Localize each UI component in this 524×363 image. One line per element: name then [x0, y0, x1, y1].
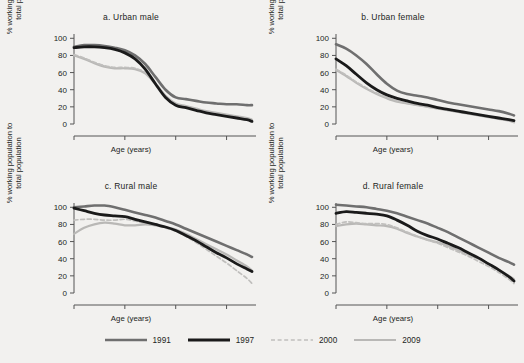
y-tick-label: 0: [63, 289, 68, 298]
y-tick-label: 40: [320, 86, 329, 95]
panel-c-xlabel: Age (years): [0, 314, 262, 323]
series-line-1997: [74, 47, 252, 122]
figure-container: a. Urban male % working population to to…: [0, 0, 524, 363]
y-tick-label: 100: [316, 34, 330, 43]
y-tick-label: 80: [320, 51, 329, 60]
legend-swatch-1991: [104, 336, 148, 344]
legend-swatch-1997: [187, 336, 231, 344]
legend-swatch-2009: [353, 336, 397, 344]
y-tick-label: 0: [63, 120, 68, 129]
chart-legend: 1991199720002009: [0, 330, 524, 350]
y-tick-label: 0: [325, 120, 330, 129]
legend-item-1991[interactable]: 1991: [104, 336, 171, 345]
y-tick-label: 20: [320, 103, 329, 112]
legend-label-2009: 2009: [402, 336, 420, 345]
y-tick-label: 40: [320, 255, 329, 264]
panel-a-plot: 02040608010045556575: [0, 6, 262, 146]
panel-d-xlabel: Age (years): [262, 314, 524, 323]
y-tick-label: 100: [54, 34, 68, 43]
legend-label-1991: 1991: [153, 336, 171, 345]
y-tick-label: 40: [58, 255, 67, 264]
y-tick-label: 80: [58, 220, 67, 229]
series-line-2000: [74, 219, 252, 283]
y-tick-label: 100: [316, 203, 330, 212]
panel-d: d. Rural female % working population to …: [262, 175, 524, 338]
panel-c: c. Rural male % working population to to…: [0, 175, 262, 338]
panel-a-xlabel: Age (years): [0, 145, 262, 154]
panel-d-plot: 02040608010045556575: [262, 175, 524, 315]
legend-item-2000[interactable]: 2000: [270, 336, 337, 345]
panel-a: a. Urban male % working population to to…: [0, 6, 262, 169]
panel-c-plot: 02040608010045556575: [0, 175, 262, 315]
y-tick-label: 100: [54, 203, 68, 212]
y-tick-label: 20: [58, 272, 67, 281]
y-tick-label: 60: [320, 69, 329, 78]
y-tick-label: 60: [58, 238, 67, 247]
y-tick-label: 60: [58, 69, 67, 78]
legend-label-1997: 1997: [236, 336, 254, 345]
legend-item-2009[interactable]: 2009: [353, 336, 420, 345]
legend-swatch-2000: [270, 336, 314, 344]
y-tick-label: 80: [58, 51, 67, 60]
y-tick-label: 40: [58, 86, 67, 95]
panel-b: b. Urban female % working population to …: [262, 6, 524, 169]
panel-b-plot: 02040608010045556575: [262, 6, 524, 146]
legend-label-2000: 2000: [319, 336, 337, 345]
legend-item-1997[interactable]: 1997: [187, 336, 254, 345]
y-tick-label: 20: [320, 272, 329, 281]
series-line-1997: [336, 59, 514, 121]
y-tick-label: 20: [58, 103, 67, 112]
y-tick-label: 80: [320, 220, 329, 229]
y-tick-label: 0: [325, 289, 330, 298]
y-tick-label: 60: [320, 238, 329, 247]
panel-b-xlabel: Age (years): [262, 145, 524, 154]
